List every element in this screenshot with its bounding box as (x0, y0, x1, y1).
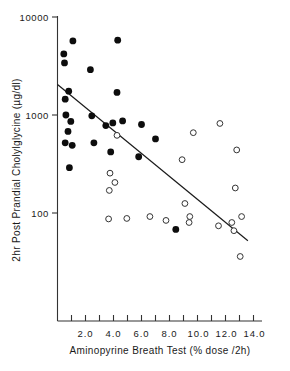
data-point-open (106, 216, 112, 222)
data-point-open (234, 147, 240, 153)
data-point-filled (114, 37, 121, 44)
y-tick-labels: 10000 1000 100 (20, 12, 49, 219)
data-point-open (114, 132, 120, 138)
plot-canvas: 10000 1000 100 2.0 4.0 6.0 8.0 10.0 (0, 0, 290, 371)
data-point-open (232, 185, 238, 191)
data-point-open (147, 214, 153, 220)
x-tick-label-12.0: 12.0 (215, 328, 237, 339)
y-tick-label-1000: 1000 (25, 110, 49, 121)
data-point-filled (61, 60, 68, 67)
x-tick-label-14.0: 14.0 (243, 328, 265, 339)
data-point-filled (102, 122, 109, 129)
data-point-open (229, 220, 235, 226)
data-point-filled (62, 96, 69, 103)
x-tick-label-10.0: 10.0 (187, 328, 209, 339)
data-point-filled (69, 142, 76, 149)
data-point-filled (65, 128, 72, 135)
scatter-plot-figure: 10000 1000 100 2.0 4.0 6.0 8.0 10.0 (0, 0, 290, 371)
y-tick-label-10000: 10000 (20, 12, 49, 23)
x-tick-label-2.0: 2.0 (78, 328, 94, 339)
y-tick-marks (52, 17, 58, 213)
x-tick-marks (72, 315, 254, 321)
data-point-filled (70, 38, 77, 45)
x-tick-label-8.0: 8.0 (162, 328, 178, 339)
data-point-open (216, 223, 222, 229)
x-tick-label-6.0: 6.0 (134, 328, 150, 339)
data-point-filled (152, 136, 159, 143)
data-point-open (190, 130, 196, 136)
data-point-open (217, 121, 223, 127)
y-tick-label-100: 100 (31, 208, 49, 219)
data-point-filled (87, 66, 94, 73)
data-point-open (112, 180, 118, 186)
data-point-filled (62, 139, 69, 146)
data-point-filled (107, 149, 114, 156)
x-axis-title: Aminopyrine Breath Test (% dose /2h) (70, 345, 251, 356)
data-point-filled (114, 89, 121, 96)
data-point-filled (172, 226, 179, 233)
data-point-open (239, 214, 245, 220)
data-point-open (186, 220, 192, 226)
data-point-filled (60, 51, 67, 58)
data-point-open (106, 188, 112, 194)
data-points-group (60, 37, 244, 260)
data-point-filled (66, 164, 73, 171)
data-point-filled (109, 120, 116, 127)
x-tick-labels: 2.0 4.0 6.0 8.0 10.0 12.0 14.0 (78, 328, 266, 339)
data-point-filled (91, 139, 98, 146)
data-point-filled (88, 112, 95, 119)
data-point-open (187, 214, 193, 220)
data-point-filled (63, 112, 70, 119)
data-point-filled (138, 121, 145, 128)
y-axis-title: 2hr Post Prandial Cholylglycine (µg/dl) (11, 78, 22, 261)
data-point-filled (67, 118, 74, 125)
data-point-filled (135, 153, 142, 160)
data-point-open (182, 201, 188, 207)
data-point-open (231, 228, 237, 234)
data-point-filled (119, 118, 126, 125)
data-point-open (179, 157, 185, 163)
data-point-open (237, 254, 243, 260)
x-tick-label-4.0: 4.0 (106, 328, 122, 339)
data-point-open (124, 216, 130, 222)
data-point-filled (65, 88, 72, 95)
data-point-open (107, 170, 113, 176)
data-point-open (163, 218, 169, 224)
